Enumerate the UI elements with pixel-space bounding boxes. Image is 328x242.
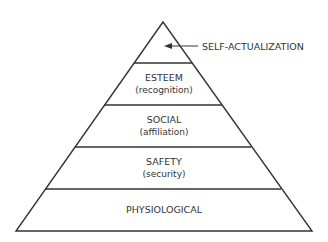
level-social: SOCIAL	[0, 114, 328, 126]
level-safety: SAFETY	[0, 156, 328, 168]
arrow-head-icon	[164, 43, 172, 49]
level-safety-detail: (security)	[0, 168, 328, 180]
level-esteem-detail: (recognition)	[0, 84, 328, 96]
level-self-actualization: SELF-ACTUALIZATION	[202, 41, 304, 52]
level-physiological: PHYSIOLOGICAL	[0, 204, 328, 216]
level-esteem: ESTEEM	[0, 72, 328, 84]
level-social-detail: (affiliation)	[0, 126, 328, 138]
